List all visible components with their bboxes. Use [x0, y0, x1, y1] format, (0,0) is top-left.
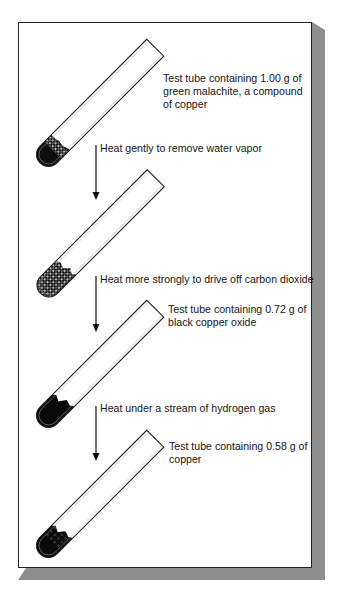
tube-4-label-line: Test tube containing 0.58 g of [169, 440, 307, 453]
tube-3-label: Test tube containing 0.72 g of black cop… [168, 303, 306, 329]
process-arrow-1 [93, 145, 100, 200]
tube-4-label: Test tube containing 0.58 g of copper [169, 440, 307, 466]
process-arrow-2 [93, 276, 100, 332]
step-3-label: Heat under a stream of hydrogen gas [100, 402, 276, 415]
step-2-label: Heat more strongly to drive off carbon d… [100, 273, 314, 286]
tube-1-label-line: green malachite, a compound [163, 85, 303, 98]
tube-1-label-line: of copper [163, 98, 303, 111]
process-arrow-3 [93, 406, 100, 461]
tube-3-label-line: Test tube containing 0.72 g of [168, 303, 306, 316]
tube-1-label: Test tube containing 1.00 g of green mal… [163, 72, 303, 111]
test-tube-4 [29, 429, 165, 565]
tube-1-label-line: Test tube containing 1.00 g of [163, 72, 303, 85]
tube-4-label-line: copper [169, 453, 307, 466]
tube-3-label-line: black copper oxide [168, 316, 306, 329]
step-1-label: Heat gently to remove water vapor [100, 142, 262, 155]
